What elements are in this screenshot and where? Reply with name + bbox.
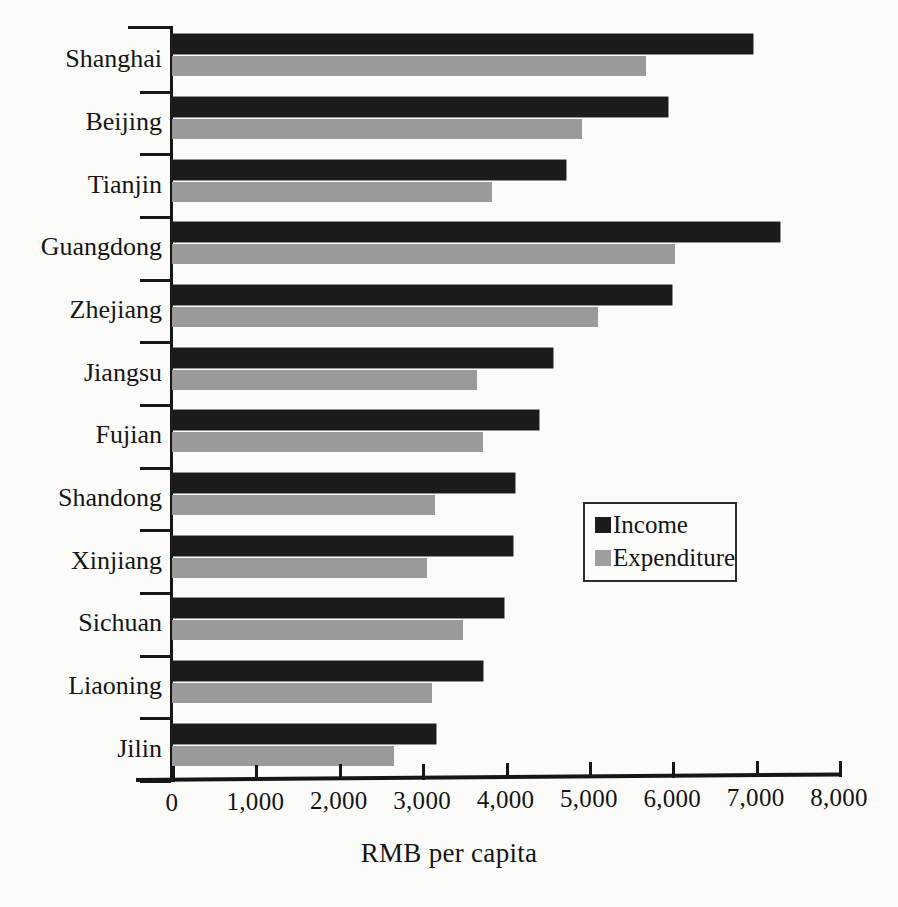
bar-expenditure-jiangsu	[172, 370, 477, 390]
legend-swatch-expenditure-icon	[595, 550, 611, 566]
bar-expenditure-zhejiang	[172, 307, 598, 327]
legend-item-income: Income	[595, 511, 688, 538]
x-axis-label-5000: 5,000	[560, 784, 618, 814]
bar-income-shandong	[172, 473, 515, 493]
x-axis-title: RMB per capita	[0, 838, 898, 869]
y-axis-label-jiangsu: Jiangsu	[84, 358, 170, 388]
x-axis-label-2000: 2,000	[310, 786, 368, 816]
legend-label-expenditure: Expenditure	[613, 544, 735, 571]
y-axis-label-tianjin: Tianjin	[88, 170, 170, 200]
bar-expenditure-sichuan	[172, 620, 463, 640]
bar-expenditure-guangdong	[172, 244, 675, 264]
bar-income-guangdong	[172, 222, 780, 242]
y-axis-tick	[140, 153, 171, 156]
y-axis-tick	[140, 341, 171, 344]
bar-expenditure-shanghai	[172, 56, 646, 76]
x-axis-tick	[839, 761, 842, 777]
bar-income-liaoning	[172, 661, 483, 681]
x-axis-label-0: 0	[166, 788, 179, 818]
x-axis-label-7000: 7,000	[727, 783, 785, 813]
bar-income-zhejiang	[172, 285, 672, 305]
x-axis-tick	[506, 763, 509, 779]
bar-income-shanghai	[172, 34, 753, 54]
page-bleed-text	[340, 893, 600, 905]
y-axis-label-xinjiang: Xinjiang	[71, 546, 170, 576]
y-axis-tick	[140, 529, 171, 532]
bar-expenditure-tianjin	[172, 182, 492, 202]
x-axis-tick	[172, 766, 175, 782]
x-axis-tick	[756, 761, 759, 777]
x-axis-label-4000: 4,000	[477, 785, 535, 815]
x-axis-label-1000: 1,000	[227, 787, 285, 817]
y-axis-tick	[140, 780, 171, 783]
legend-swatch-income-icon	[595, 517, 611, 533]
legend-label-income: Income	[613, 511, 688, 538]
bar-income-jilin	[172, 724, 436, 744]
x-axis-label-8000: 8,000	[810, 783, 868, 813]
y-axis-tick	[140, 279, 171, 282]
chart-figure: ShanghaiBeijingTianjinGuangdongZhejiangJ…	[0, 0, 898, 907]
legend-item-expenditure: Expenditure	[595, 544, 735, 571]
y-axis-label-shanghai: Shanghai	[65, 44, 170, 74]
bar-expenditure-jilin	[172, 746, 394, 766]
y-axis-label-shandong: Shandong	[58, 483, 170, 513]
bar-expenditure-shandong	[172, 495, 435, 515]
bar-income-jiangsu	[172, 348, 553, 368]
y-axis-label-guangdong: Guangdong	[41, 232, 170, 262]
bar-income-beijing	[172, 97, 668, 117]
bar-income-sichuan	[172, 598, 504, 618]
y-axis-tick	[140, 467, 171, 470]
y-axis-label-jilin: Jilin	[117, 734, 170, 764]
bar-income-tianjin	[172, 160, 566, 180]
bar-expenditure-liaoning	[172, 683, 432, 703]
y-axis-label-beijing: Beijing	[85, 107, 170, 137]
y-axis-tick	[140, 592, 171, 595]
plot-area	[172, 28, 839, 780]
bar-expenditure-fujian	[172, 432, 483, 452]
y-axis-label-fujian: Fujian	[96, 420, 170, 450]
x-axis-tick	[672, 762, 675, 778]
x-axis-tick	[255, 765, 258, 781]
y-axis-tick	[140, 717, 171, 720]
bar-income-xinjiang	[172, 536, 513, 556]
y-axis-tick	[140, 216, 171, 219]
y-axis-tick	[140, 404, 171, 407]
bar-expenditure-beijing	[172, 119, 582, 139]
y-axis-label-zhejiang: Zhejiang	[70, 295, 170, 325]
x-axis-tick	[339, 764, 342, 780]
x-axis-label-6000: 6,000	[643, 784, 701, 814]
bar-expenditure-xinjiang	[172, 558, 427, 578]
x-axis-label-3000: 3,000	[393, 786, 451, 816]
y-axis-tick	[140, 655, 171, 658]
y-axis-tick	[128, 26, 171, 29]
y-axis-label-liaoning: Liaoning	[68, 671, 170, 701]
bar-income-fujian	[172, 410, 539, 430]
y-axis-label-sichuan: Sichuan	[78, 608, 170, 638]
x-axis-tick	[589, 762, 592, 778]
x-axis-tick	[422, 764, 425, 780]
y-axis-tick	[140, 91, 171, 94]
chart-legend: Income Expenditure	[583, 502, 737, 582]
